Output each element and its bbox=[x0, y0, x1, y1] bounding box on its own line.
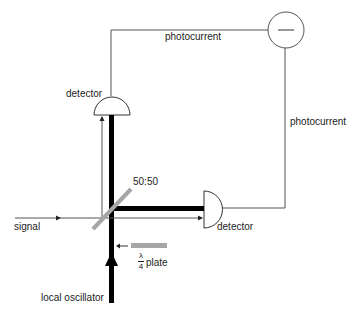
label-photocurrent-top: photocurrent bbox=[165, 32, 221, 42]
signal-up-arrow-icon bbox=[100, 116, 105, 121]
lo-arrow-icon bbox=[105, 252, 118, 266]
label-photocurrent-right: photocurrent bbox=[290, 117, 346, 127]
waveplate-icon bbox=[131, 243, 167, 248]
reflected-lo-beam bbox=[112, 206, 204, 211]
wire-right-detector-to-subtractor bbox=[222, 48, 285, 208]
label-beamsplitter: 50:50 bbox=[133, 177, 158, 187]
fraction-denominator: 4 bbox=[139, 263, 143, 271]
subtractor-circle bbox=[268, 12, 304, 48]
fraction-numerator: λ bbox=[139, 252, 143, 260]
detector-top-icon bbox=[94, 97, 130, 115]
waveplate-pointer-arrow-icon bbox=[116, 244, 120, 249]
signal-right-arrow-icon bbox=[198, 216, 203, 221]
label-detector-top: detector bbox=[66, 89, 102, 99]
label-signal: signal bbox=[14, 222, 40, 232]
label-detector-right: detector bbox=[217, 222, 253, 232]
label-waveplate: plate bbox=[146, 258, 168, 268]
signal-arrow-icon bbox=[56, 216, 61, 221]
label-local-oscillator: local oscillator bbox=[41, 293, 104, 303]
homodyne-diagram bbox=[0, 0, 363, 318]
waveplate-fraction: λ 4 bbox=[138, 252, 144, 271]
